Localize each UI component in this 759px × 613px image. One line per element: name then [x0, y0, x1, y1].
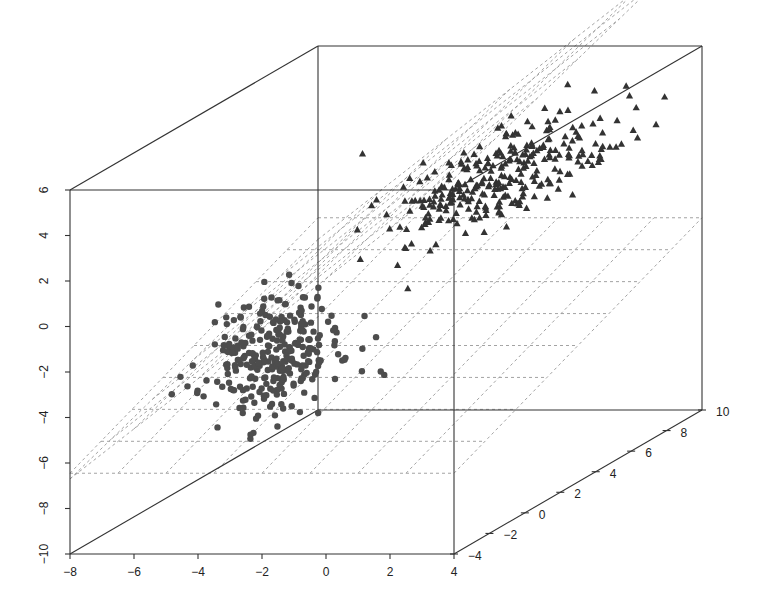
circle-point — [288, 357, 294, 363]
circle-point — [223, 361, 229, 367]
circle-point — [305, 336, 311, 342]
tilted-plane-line — [454, 0, 702, 179]
triangle-point — [606, 143, 613, 149]
x-tick-label: 2 — [387, 565, 394, 579]
circle-point — [261, 296, 267, 302]
triangle-point — [406, 175, 413, 181]
triangle-point — [589, 120, 596, 126]
circle-point — [277, 325, 283, 331]
circle-point — [313, 369, 319, 375]
circle-point — [232, 335, 238, 341]
scatter-3d-plot: −8−6−4−2024 −10−8−6−4−20246 −4−20246810 — [0, 0, 759, 613]
circle-point — [237, 314, 243, 320]
triangle-point — [424, 174, 431, 180]
circle-point — [212, 319, 218, 325]
circle-point — [225, 371, 231, 377]
triangle-point — [373, 196, 380, 202]
triangle-point — [626, 92, 633, 98]
triangle-point — [630, 126, 637, 132]
triangle-point — [541, 105, 548, 111]
z-tick-label: −4 — [37, 410, 51, 424]
z-tick-label: 6 — [37, 186, 51, 193]
triangle-point — [400, 183, 407, 189]
circle-point — [250, 384, 256, 390]
depth-tick-label: −4 — [468, 549, 482, 563]
z-axis: −10−8−6−4−20246 — [37, 186, 70, 564]
circle-point — [274, 297, 280, 303]
tilted-plane-line — [277, 0, 661, 279]
triangle-point — [599, 143, 606, 149]
circle-point — [271, 374, 277, 380]
circle-point — [268, 294, 274, 300]
triangle-point — [551, 165, 558, 171]
circle-point — [214, 424, 220, 430]
circle-point — [291, 316, 297, 322]
triangle-point — [507, 142, 514, 148]
flat-plane-line — [454, 218, 702, 473]
circle-point — [274, 391, 280, 397]
z-tick-label: 2 — [37, 277, 51, 284]
circle-point — [295, 342, 301, 348]
circle-point — [286, 271, 292, 277]
circle-point — [359, 368, 365, 374]
triangle-point — [530, 159, 537, 165]
triangle-point — [564, 81, 571, 87]
triangle-point — [368, 202, 375, 208]
circle-point — [257, 310, 263, 316]
circle-point — [246, 304, 252, 310]
circle-point — [325, 319, 331, 325]
circle-point — [219, 384, 225, 390]
circle-point — [300, 328, 306, 334]
triangle-point — [552, 146, 559, 152]
depth-tick-label: 10 — [716, 405, 730, 419]
z-tick-label: 4 — [37, 232, 51, 239]
circle-point — [232, 364, 238, 370]
triangle-point — [401, 244, 408, 250]
circle-point — [314, 294, 320, 300]
circle-point — [255, 360, 261, 366]
circle-point — [316, 342, 322, 348]
circle-point — [373, 334, 379, 340]
triangle-point — [634, 134, 641, 140]
circle-point — [378, 368, 384, 374]
circle-point — [279, 366, 285, 372]
circle-point — [235, 345, 241, 351]
x-tick-label: −6 — [127, 565, 141, 579]
triangle-point — [531, 193, 538, 199]
triangle-point — [523, 204, 530, 210]
circle-point — [261, 396, 267, 402]
circle-point — [255, 413, 261, 419]
circle-point — [295, 283, 301, 289]
circle-point — [264, 333, 270, 339]
circle-point — [330, 327, 336, 333]
triangle-point — [544, 194, 551, 200]
x-tick-label: −8 — [63, 565, 77, 579]
circle-point — [169, 391, 175, 397]
circle-point — [254, 324, 260, 330]
triangle-point — [652, 121, 659, 127]
circle-point — [215, 301, 221, 307]
triangle-point — [464, 187, 471, 193]
triangle-point — [460, 149, 467, 155]
box-edge — [70, 46, 318, 190]
circle-point — [314, 349, 320, 355]
circle-point — [290, 382, 296, 388]
circle-point — [277, 344, 283, 350]
circle-point — [249, 350, 255, 356]
circle-point — [288, 348, 294, 354]
circle-point — [335, 351, 341, 357]
circle-point — [212, 341, 218, 347]
circle-point — [274, 423, 280, 429]
triangle-point — [591, 87, 598, 93]
z-tick-label: 0 — [37, 323, 51, 330]
x-tick-label: 0 — [323, 565, 330, 579]
triangle-point — [569, 124, 576, 130]
circle-point — [223, 314, 229, 320]
box-edge — [454, 46, 702, 190]
triangle-point — [599, 129, 606, 135]
depth-tick-label: 6 — [645, 446, 652, 460]
triangle-point — [484, 154, 491, 160]
x-tick-label: −4 — [191, 565, 205, 579]
triangle-point — [544, 118, 551, 124]
circle-point — [260, 349, 266, 355]
